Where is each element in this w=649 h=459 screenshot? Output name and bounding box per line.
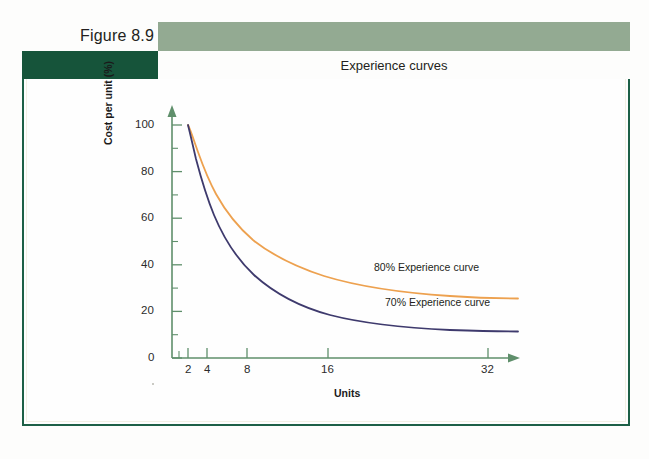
figure-frame-inner [26, 79, 626, 422]
header-band-light [158, 22, 630, 51]
figure-page: Figure 8.9 Experience curves [0, 0, 649, 459]
print-speck [152, 383, 154, 385]
header-band-dark [22, 51, 158, 79]
figure-title: Experience curves [158, 52, 630, 79]
figure-number-label: Figure 8.9 [22, 22, 154, 50]
figure-frame [22, 79, 630, 426]
